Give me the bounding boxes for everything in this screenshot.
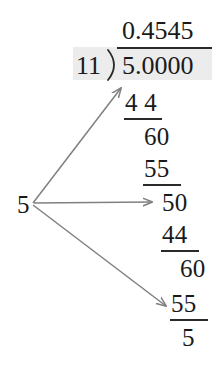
step-4-remainder: 5 bbox=[182, 325, 195, 350]
step-4-subtraction-rule bbox=[170, 319, 208, 321]
arrow-to-dividend bbox=[33, 88, 121, 203]
step-1-remainder: 60 bbox=[144, 124, 169, 149]
step-3-subtraction-rule bbox=[161, 250, 199, 252]
quotient-value: 0.4545 bbox=[122, 18, 194, 44]
step-2-product: 55 bbox=[144, 156, 169, 181]
arrow-to-remainder-50 bbox=[34, 202, 152, 203]
arrow-to-remainder-5 bbox=[33, 205, 166, 306]
dividend-value: 5.0000 bbox=[122, 53, 194, 79]
divisor-value: 11 bbox=[76, 53, 101, 79]
step-3-product: 44 bbox=[162, 222, 187, 247]
step-3-remainder: 60 bbox=[180, 256, 205, 281]
step-2-subtraction-rule bbox=[143, 184, 181, 186]
step-4-product: 55 bbox=[171, 291, 196, 316]
step-1-subtraction-rule bbox=[124, 118, 162, 120]
step-2-remainder: 50 bbox=[162, 190, 187, 215]
division-vinculum bbox=[117, 47, 212, 49]
left-source-label: 5 bbox=[17, 192, 30, 217]
step-1-product: 4 4 bbox=[125, 90, 157, 115]
long-division-figure: 0.4545 11 5.0000 4 4 60 55 50 44 60 55 5… bbox=[0, 0, 218, 371]
